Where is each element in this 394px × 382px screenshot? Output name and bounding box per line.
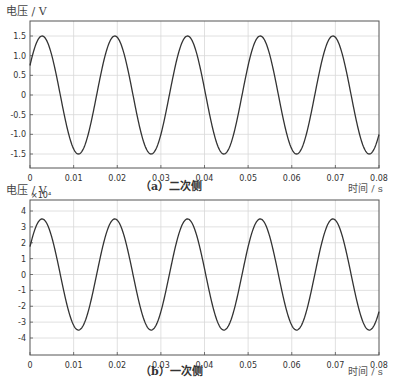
y-tick-label: 0 xyxy=(21,271,26,280)
x-tick-label: 0.06 xyxy=(283,361,301,370)
x-tick-label: 0.02 xyxy=(108,361,126,370)
y-tick-label: -4 xyxy=(18,334,26,343)
plot-b-caption: （b）一次侧 xyxy=(140,362,203,378)
y-tick-label: 3 xyxy=(21,223,26,232)
x-tick-label: 0.07 xyxy=(326,361,344,370)
y-tick-label: -3 xyxy=(18,318,26,327)
y-tick-label: 1 xyxy=(21,255,26,264)
plot-b-axes: 00.010.020.030.040.050.060.070.0843210-1… xyxy=(0,0,394,382)
plot-b-xlabel: 时间 / s xyxy=(348,363,383,378)
y-tick-label: -1 xyxy=(18,286,26,295)
x-tick-label: 0 xyxy=(27,361,32,370)
x-tick-label: 0.05 xyxy=(239,361,257,370)
y-tick-label: 4 xyxy=(21,207,26,216)
y-tick-label: -2 xyxy=(18,302,26,311)
x-tick-label: 0.01 xyxy=(65,361,83,370)
y-tick-label: 2 xyxy=(21,239,26,248)
